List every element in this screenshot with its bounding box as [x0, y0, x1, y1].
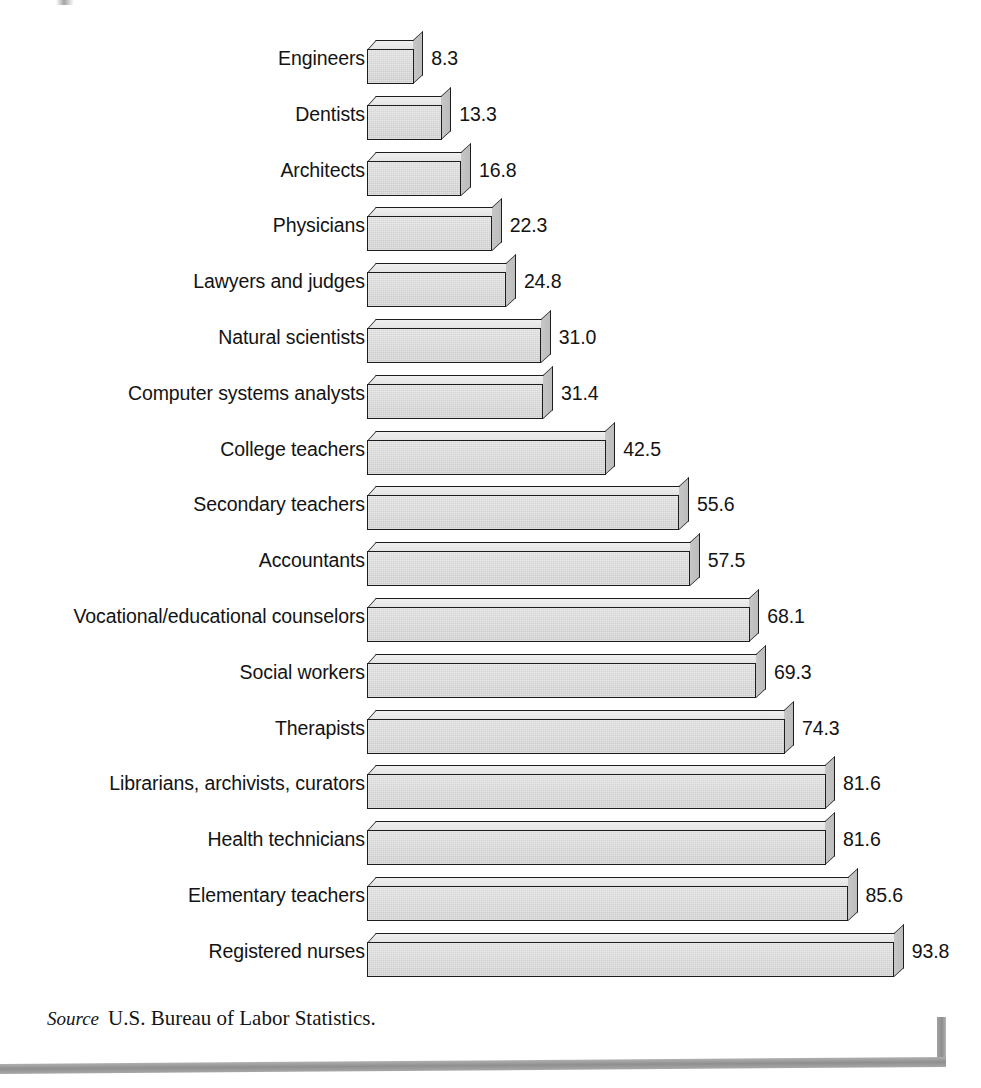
bar-side-face [784, 701, 794, 754]
category-label: Engineers [35, 47, 365, 70]
bar-row: Architects16.8 [0, 142, 981, 198]
bar-side-face [506, 255, 516, 308]
bar [367, 710, 785, 754]
bar [367, 765, 826, 809]
bar [367, 821, 826, 865]
source-note: SourceU.S. Bureau of Labor Statistics. [47, 1006, 376, 1031]
bar-front-face [367, 384, 543, 419]
bar-value-label: 31.0 [559, 326, 597, 349]
bar-value-label: 85.6 [866, 884, 904, 907]
category-label: Secondary teachers [35, 493, 365, 516]
bar-value-label: 31.4 [561, 382, 599, 405]
chart-page: Engineers8.3Dentists13.3Architects16.8Ph… [0, 0, 981, 1088]
category-label: Lawyers and judges [35, 270, 365, 293]
bar [367, 542, 690, 586]
bar-front-face [367, 551, 690, 586]
category-label: College teachers [35, 438, 365, 461]
bar-row: Registered nurses93.8 [0, 923, 981, 979]
bar-side-face [894, 924, 904, 977]
bar-value-label: 55.6 [697, 493, 735, 516]
bar [367, 263, 506, 307]
bar-row: Lawyers and judges24.8 [0, 253, 981, 309]
category-label: Dentists [35, 103, 365, 126]
category-label: Elementary teachers [35, 884, 365, 907]
bar-side-face [461, 143, 471, 196]
bar-front-face [367, 272, 506, 307]
category-label: Therapists [35, 717, 365, 740]
bar-front-face [367, 161, 461, 196]
decorative-rule-horizontal [0, 1057, 946, 1074]
category-label: Social workers [35, 661, 365, 684]
bar-front-face [367, 328, 541, 363]
bar-value-label: 8.3 [431, 47, 458, 70]
bar [367, 207, 492, 251]
bar [367, 654, 756, 698]
category-label: Physicians [35, 214, 365, 237]
bar [367, 877, 848, 921]
bar-value-label: 93.8 [912, 940, 950, 963]
bar-front-face [367, 495, 679, 530]
category-label: Registered nurses [35, 940, 365, 963]
bar-row: Physicians22.3 [0, 197, 981, 253]
bar-front-face [367, 774, 826, 809]
bar-value-label: 13.3 [459, 103, 497, 126]
bar-side-face [848, 868, 858, 921]
bar-side-face [679, 478, 689, 531]
bar [367, 40, 414, 84]
bar-front-face [367, 105, 442, 140]
bar-side-face [492, 199, 502, 252]
bar-side-face [690, 534, 700, 587]
bar-value-label: 81.6 [843, 828, 881, 851]
bar-front-face [367, 607, 750, 642]
bar-row: Computer systems analysts31.4 [0, 365, 981, 421]
bar-row: Natural scientists31.0 [0, 309, 981, 365]
category-label: Architects [35, 159, 365, 182]
category-label: Accountants [35, 549, 365, 572]
bar [367, 431, 606, 475]
category-label: Health technicians [35, 828, 365, 851]
category-label: Librarians, archivists, curators [35, 772, 365, 795]
bar [367, 152, 461, 196]
bar-value-label: 57.5 [708, 549, 746, 572]
bar [367, 375, 543, 419]
bar [367, 319, 541, 363]
bar-row: Health technicians81.6 [0, 811, 981, 867]
bar-side-face [825, 757, 835, 810]
bar [367, 598, 750, 642]
bar-side-face [441, 87, 451, 140]
bar [367, 486, 679, 530]
bar-row: Dentists13.3 [0, 86, 981, 142]
bar-value-label: 24.8 [524, 270, 562, 293]
bar-value-label: 68.1 [767, 605, 805, 628]
bar-side-face [825, 813, 835, 866]
category-label: Computer systems analysts [35, 382, 365, 405]
bar-side-face [749, 589, 759, 642]
bar-row: Social workers69.3 [0, 644, 981, 700]
bar-value-label: 69.3 [774, 661, 812, 684]
bar-side-face [541, 310, 551, 363]
bar-row: Engineers8.3 [0, 30, 981, 86]
bar-side-face [756, 645, 766, 698]
bar-value-label: 16.8 [479, 159, 517, 182]
bar-front-face [367, 942, 894, 977]
bar-row: Therapists74.3 [0, 700, 981, 756]
source-label: Source [47, 1008, 99, 1029]
bar-row: Elementary teachers85.6 [0, 867, 981, 923]
bar [367, 933, 894, 977]
bar-row: Vocational/educational counselors68.1 [0, 588, 981, 644]
bar [367, 96, 442, 140]
bar-front-face [367, 49, 414, 84]
bar-side-face [413, 31, 423, 84]
bar-front-face [367, 440, 606, 475]
bar-value-label: 74.3 [802, 717, 840, 740]
bar-side-face [605, 422, 615, 475]
bar-row: Accountants57.5 [0, 532, 981, 588]
bar-row: Secondary teachers55.6 [0, 476, 981, 532]
source-text: U.S. Bureau of Labor Statistics. [108, 1006, 376, 1030]
bar-row: College teachers42.5 [0, 421, 981, 477]
bar-value-label: 22.3 [510, 214, 548, 237]
bar-front-face [367, 886, 848, 921]
bar-front-face [367, 663, 756, 698]
bar-value-label: 81.6 [843, 772, 881, 795]
bar-front-face [367, 216, 492, 251]
